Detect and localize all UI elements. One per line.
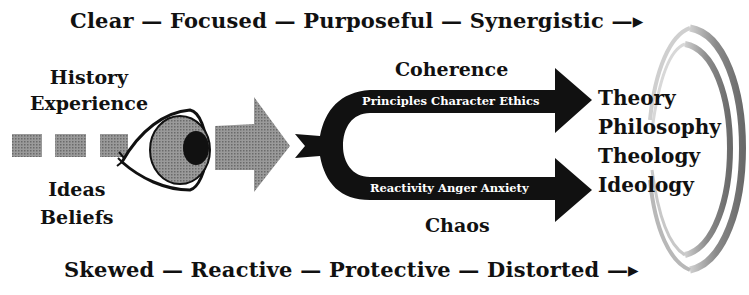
branch-arm-upper: Principles Character Ethics bbox=[362, 94, 539, 108]
top-quality-line: Clear — Focused — Purposeful — Synergist… bbox=[70, 8, 643, 33]
outcome-theory: Theory bbox=[598, 84, 721, 113]
fork-arrow-icon bbox=[295, 68, 592, 222]
branch-heading-chaos: Chaos bbox=[425, 214, 490, 236]
outcomes-list: Theory Philosophy Theology Ideology bbox=[598, 84, 721, 200]
branch-heading-coherence: Coherence bbox=[395, 58, 508, 80]
input-ideas: Ideas bbox=[40, 175, 114, 203]
branch-arm-lower: Reactivity Anger Anxiety bbox=[370, 181, 529, 195]
outcome-theology: Theology bbox=[598, 142, 721, 171]
outcome-ideology: Ideology bbox=[598, 171, 721, 200]
outcome-philosophy: Philosophy bbox=[598, 113, 721, 142]
inputs-bottom: Ideas Beliefs bbox=[40, 175, 114, 231]
arrow-right-icon bbox=[215, 97, 290, 192]
input-history: History bbox=[30, 64, 148, 90]
eye-icon bbox=[117, 110, 210, 190]
input-stream-dashes bbox=[12, 134, 128, 157]
bottom-quality-line: Skewed — Reactive — Protective — Distort… bbox=[64, 257, 639, 282]
inputs-top: History Experience bbox=[30, 64, 148, 116]
input-beliefs: Beliefs bbox=[40, 203, 114, 231]
input-experience: Experience bbox=[30, 90, 148, 116]
